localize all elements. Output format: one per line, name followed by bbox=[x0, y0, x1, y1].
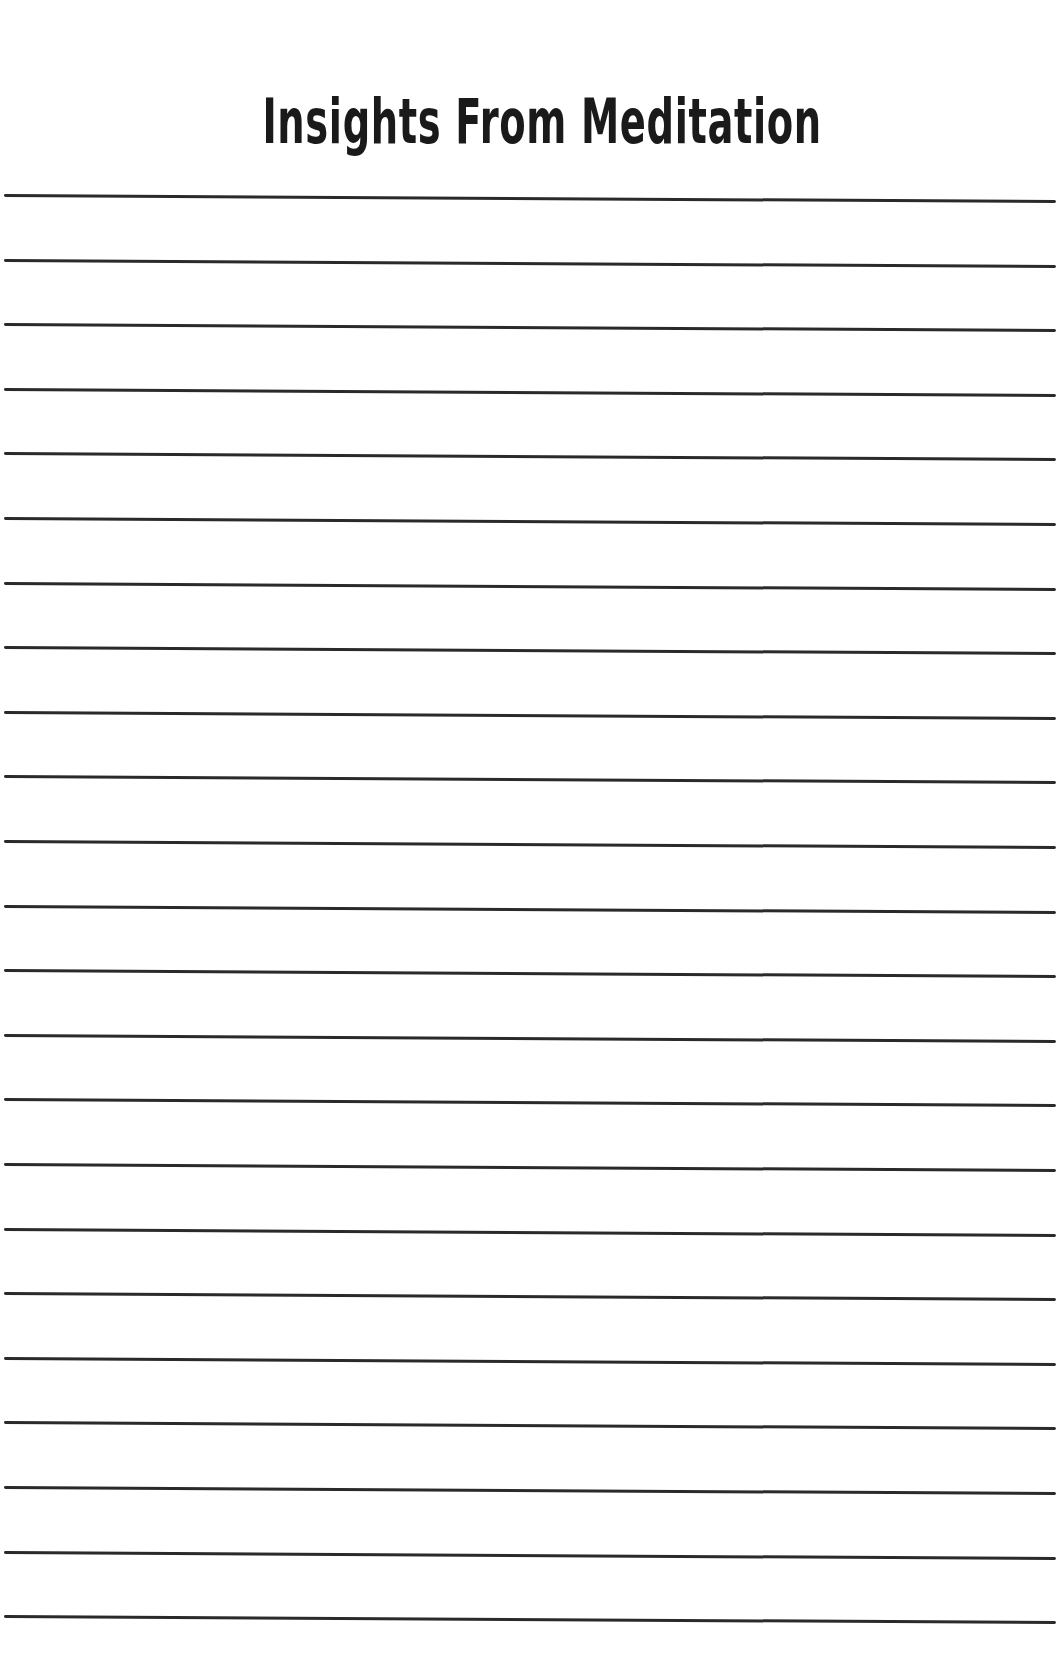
writing-line bbox=[4, 1163, 1056, 1172]
writing-line bbox=[4, 1034, 1056, 1043]
writing-line bbox=[4, 646, 1056, 655]
notebook-page: Insights From Meditation bbox=[0, 0, 1059, 1671]
writing-line bbox=[4, 1098, 1056, 1107]
writing-line bbox=[4, 1486, 1056, 1495]
writing-line bbox=[4, 1228, 1056, 1237]
writing-line bbox=[4, 1357, 1056, 1366]
writing-line bbox=[4, 840, 1056, 849]
writing-line bbox=[4, 259, 1056, 268]
ruled-lines bbox=[0, 0, 1059, 1671]
writing-line bbox=[4, 452, 1056, 461]
writing-line bbox=[4, 1615, 1056, 1624]
writing-line bbox=[4, 194, 1056, 203]
writing-line bbox=[4, 1551, 1056, 1560]
writing-line bbox=[4, 388, 1056, 397]
writing-line bbox=[4, 323, 1056, 332]
writing-line bbox=[4, 711, 1056, 720]
writing-line bbox=[4, 582, 1056, 591]
writing-line bbox=[4, 517, 1056, 526]
writing-line bbox=[4, 1292, 1056, 1301]
writing-line bbox=[4, 969, 1056, 978]
writing-line bbox=[4, 775, 1056, 784]
writing-line bbox=[4, 905, 1056, 914]
writing-line bbox=[4, 1421, 1056, 1430]
